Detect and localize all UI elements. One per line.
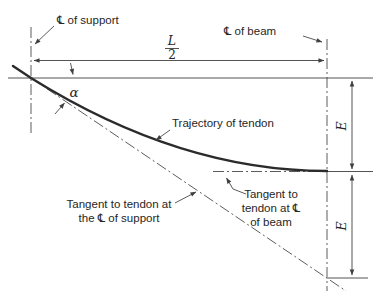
tendon-trajectory-figure: L 2 E E ℄ of support ℄ of beam α Traject… — [0, 0, 381, 303]
beam-centerline-leader-arrow — [303, 36, 322, 42]
angle-arrow-to-reference — [71, 63, 74, 75]
tangent-beam-label-line1: Tangent to — [244, 188, 298, 200]
angle-label: α — [69, 84, 78, 100]
tangent-support-label-line1: Tangent to tendon at — [67, 198, 173, 210]
tangent-beam-label-line2: tendon at ℄ — [242, 202, 301, 214]
tangent-beam-leader-arrow — [227, 178, 247, 194]
beam-centerline-label: ℄ of beam — [223, 25, 276, 37]
support-centerline-label: ℄ of support — [56, 14, 120, 26]
tangent-support-label-line2: the ℄ of support — [79, 212, 161, 224]
tangent-beam-label-line3: of beam — [250, 216, 292, 228]
span-denominator-label: 2 — [168, 48, 176, 62]
diagram-canvas: L 2 E E ℄ of support ℄ of beam α Traject… — [0, 0, 381, 303]
tendon-curve — [13, 66, 327, 171]
trajectory-label: Trajectory of tendon — [172, 117, 274, 129]
lower-eccentricity-label: E — [334, 221, 349, 231]
angle-arrow-to-tangent — [55, 103, 65, 114]
support-centerline-leader-arrow — [35, 26, 54, 44]
tangent-at-support-line — [31, 78, 346, 291]
span-numerator-label: L — [167, 33, 176, 48]
upper-eccentricity-label: E — [334, 121, 349, 131]
tangent-support-leader-arrow — [175, 192, 196, 203]
trajectory-leader-arrow — [156, 130, 170, 140]
